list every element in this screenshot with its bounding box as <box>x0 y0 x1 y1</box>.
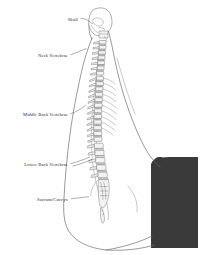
background-shade-block <box>151 157 198 248</box>
label-middle-back-vertebrae-text: Middle Back Vertebrae <box>23 112 68 117</box>
label-neck-vertebrae: Neck Vertebrae <box>38 49 87 58</box>
body-outline <box>64 10 160 250</box>
label-sacrum-coccyx-text: Sacrum/Coccyx <box>37 197 68 202</box>
label-lower-back-vertebrae-text: Lower Back Vertebrae <box>24 162 68 167</box>
label-skull-text: Skull <box>68 17 79 22</box>
lumbar-vertebrae <box>88 143 108 179</box>
label-lower-back-vertebrae: Lower Back Vertebrae <box>24 157 92 167</box>
skull-graphic <box>89 8 112 42</box>
sacrum-coccyx <box>91 180 110 224</box>
cervical-vertebrae <box>90 41 106 76</box>
spine-anatomy-figure: Skull Neck Vertebrae Middle Back Vertebr… <box>0 0 202 255</box>
label-middle-back-vertebrae: Middle Back Vertebrae <box>23 105 86 117</box>
label-neck-vertebrae-text: Neck Vertebrae <box>38 53 68 58</box>
label-group: Skull Neck Vertebrae Middle Back Vertebr… <box>23 17 93 202</box>
vertebral-column <box>87 40 116 223</box>
label-sacrum-coccyx: Sacrum/Coccyx <box>37 197 89 202</box>
spine-diagram-canvas: Skull Neck Vertebrae Middle Back Vertebr… <box>0 0 202 255</box>
